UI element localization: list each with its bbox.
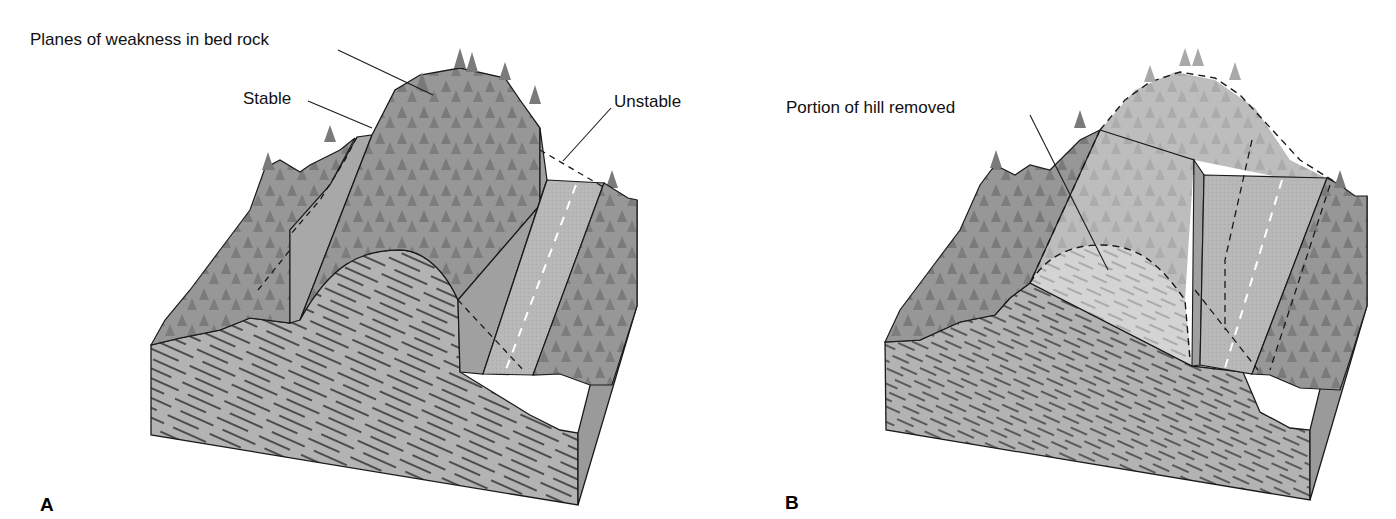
leader-stable	[308, 101, 372, 128]
panel-letter-b: B	[785, 492, 799, 514]
panel-letter-a: A	[40, 494, 54, 516]
label-planes-of-weakness: Planes of weakness in bed rock	[30, 30, 269, 50]
panel-a-diagram	[151, 48, 637, 505]
leader-planes	[338, 50, 433, 95]
label-unstable: Unstable	[614, 92, 681, 112]
panel-b-diagram	[885, 48, 1367, 500]
leader-unstable	[563, 108, 611, 161]
label-stable: Stable	[243, 89, 291, 109]
label-portion-removed: Portion of hill removed	[786, 98, 955, 118]
diagram-stage: Planes of weakness in bed rock Stable Un…	[0, 0, 1396, 519]
